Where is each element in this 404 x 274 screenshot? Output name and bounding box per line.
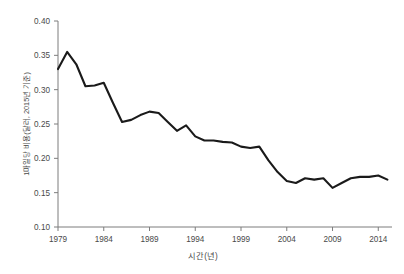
x-tick-label: 1984: [95, 235, 114, 244]
x-tick-label: 2004: [278, 235, 297, 244]
y-tick-label: 0.40: [34, 17, 50, 26]
chart-background: [0, 0, 404, 274]
x-tick-label: 2009: [323, 235, 342, 244]
y-tick-label: 0.30: [34, 86, 50, 95]
y-tick-label: 0.25: [34, 120, 50, 129]
x-tick-label: 1979: [49, 235, 68, 244]
line-chart: 0.100.150.200.250.300.350.40 19791984198…: [0, 0, 404, 274]
x-tick-label: 1989: [140, 235, 159, 244]
y-tick-label: 0.35: [34, 51, 50, 60]
y-tick-label: 0.15: [34, 189, 50, 198]
x-axis-title: 시간(년): [188, 251, 218, 261]
y-tick-label: 0.20: [34, 154, 50, 163]
y-axis-title: 1마일당 비용(달러, 2015년 기준): [22, 72, 31, 176]
chart-container: 0.100.150.200.250.300.350.40 19791984198…: [0, 0, 404, 274]
x-tick-label: 1999: [232, 235, 251, 244]
x-tick-label: 2014: [369, 235, 388, 244]
x-tick-label: 1994: [186, 235, 205, 244]
y-tick-label: 0.10: [34, 223, 50, 232]
